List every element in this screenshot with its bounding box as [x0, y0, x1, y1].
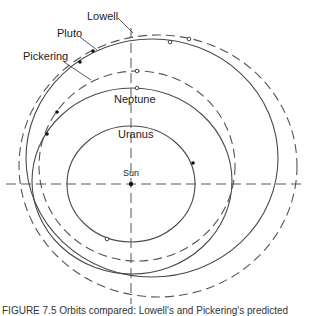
pickering-position-dot — [78, 60, 82, 64]
neptune-orbit — [32, 88, 232, 274]
perihelion-marker — [187, 37, 191, 41]
figure-caption: FIGURE 7.5 Orbits compared: Lowell's and… — [2, 306, 311, 316]
perihelion-marker — [168, 40, 172, 44]
pickering-label: Pickering — [23, 50, 68, 62]
perihelion-marker — [105, 237, 109, 241]
pluto-leader-line — [80, 37, 97, 50]
pluto-position-dot — [91, 49, 95, 53]
pluto-orbit — [26, 39, 278, 277]
sun-label: Sun — [123, 168, 139, 178]
lowell-leader-line — [118, 18, 133, 33]
position-dot — [45, 132, 49, 136]
perihelion-marker — [135, 86, 139, 90]
lowell-label: Lowell — [87, 10, 118, 22]
position-dot — [55, 110, 59, 114]
uranus-label: Uranus — [118, 128, 154, 140]
neptune-label: Neptune — [114, 93, 156, 105]
lowell-orbit — [19, 35, 297, 297]
sun-marker — [129, 182, 133, 186]
pluto-label: Pluto — [57, 27, 82, 39]
uranus-position-dot — [191, 161, 195, 165]
pickering-leader-line — [64, 62, 91, 80]
perihelion-marker — [135, 69, 139, 73]
